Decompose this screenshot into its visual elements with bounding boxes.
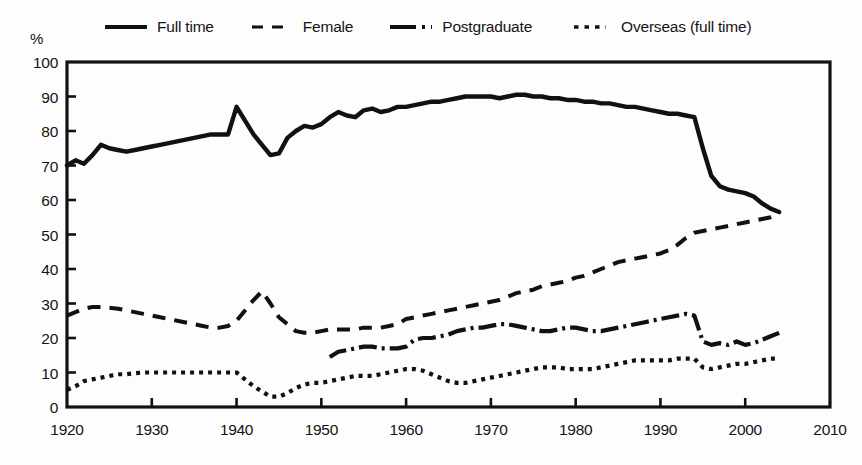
y-tick-label: 10 (41, 365, 58, 382)
y-tick-label: 30 (41, 296, 58, 313)
plot-area: 1009080706050403020100 19201930194019501… (0, 0, 862, 465)
y-tick-label: 100 (33, 54, 59, 71)
x-tick-label: 1950 (305, 421, 339, 438)
y-tick-label: 60 (41, 192, 58, 209)
y-tick-label: 20 (41, 330, 58, 347)
series-line-postgraduate (330, 314, 779, 357)
y-tick-label: 50 (41, 227, 58, 244)
y-axis-ticks: 1009080706050403020100 (33, 54, 76, 416)
x-axis-ticks: 1920193019401950196019701980199020002010 (50, 398, 847, 438)
x-tick-label: 1990 (644, 421, 678, 438)
x-tick-label: 1970 (474, 421, 508, 438)
y-tick-label: 70 (41, 158, 58, 175)
x-tick-label: 2010 (813, 421, 847, 438)
series-line-full-time (67, 95, 779, 212)
x-tick-label: 1980 (559, 421, 593, 438)
y-tick-label: 0 (50, 399, 59, 416)
y-tick-label: 90 (41, 89, 58, 106)
x-tick-label: 1920 (50, 421, 84, 438)
axis-frame (67, 62, 830, 407)
x-tick-label: 2000 (729, 421, 763, 438)
y-tick-label: 80 (41, 123, 58, 140)
x-tick-label: 1930 (135, 421, 169, 438)
data-series-group (67, 95, 779, 397)
series-line-overseas-full-time (67, 359, 779, 397)
chart-figure: Full time Female Postgraduate Overseas (… (0, 0, 862, 465)
y-tick-label: 40 (41, 261, 58, 278)
x-tick-label: 1940 (220, 421, 254, 438)
x-tick-label: 1960 (389, 421, 423, 438)
